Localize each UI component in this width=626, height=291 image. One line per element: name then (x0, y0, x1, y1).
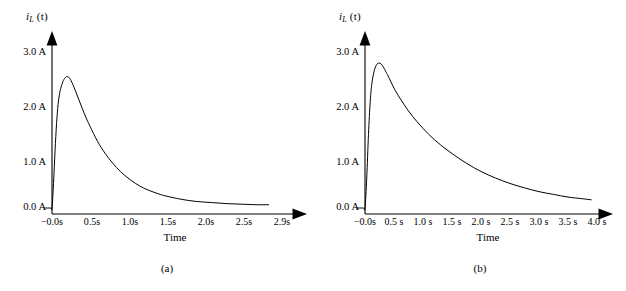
x-axis-title-a: Time (140, 231, 210, 243)
panel-caption-b: (b) (450, 262, 510, 274)
x-tick-label-a-6: 2.9s (259, 216, 305, 227)
y-tick-label-a-2: 1.0 A (0, 156, 46, 167)
figure-root: iL (t) 3.0 A 2.0 A 1.0 A 0.0 A −0.0s 0.5… (0, 0, 626, 291)
x-tick-label-b-8: 4.0 s (575, 216, 619, 227)
data-curve-b (356, 63, 591, 210)
y-tick-label-a-0: 3.0 A (0, 46, 46, 57)
y-tick-label-a-3: 0.0 A (0, 201, 46, 212)
chart-panel-a: iL (t) 3.0 A 2.0 A 1.0 A 0.0 A −0.0s 0.5… (0, 0, 313, 291)
plot-area-a (0, 0, 313, 291)
y-axis-label-paren-b: (t) (347, 10, 361, 22)
y-axis-arrowhead-b (360, 31, 371, 46)
plot-area-b (313, 0, 626, 291)
data-curve-a (44, 77, 268, 210)
y-axis-arrowhead-a (47, 31, 58, 46)
y-tick-label-b-3: 0.0 A (313, 201, 359, 212)
panel-caption-a: (a) (137, 262, 197, 274)
chart-panel-b: iL (t) 3.0 A 2.0 A 1.0 A 0.0 A −0.0s 0.5… (313, 0, 626, 291)
y-axis-label-b: iL (t) (339, 10, 361, 24)
y-tick-label-b-0: 3.0 A (313, 46, 359, 57)
x-axis-title-b: Time (453, 231, 523, 243)
y-axis-label-paren-a: (t) (34, 10, 48, 22)
y-tick-label-b-1: 2.0 A (313, 101, 359, 112)
y-tick-label-a-1: 2.0 A (0, 101, 46, 112)
y-tick-label-b-2: 1.0 A (313, 156, 359, 167)
y-axis-label-a: iL (t) (26, 10, 48, 24)
